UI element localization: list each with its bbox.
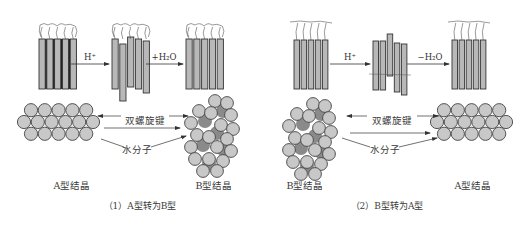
helix-bar-group: [39, 24, 77, 90]
label-b-crystal-1: B型结晶: [196, 178, 233, 192]
caption-b-to-a: （2）B型转为A型: [351, 199, 424, 212]
reaction-label-acid-2: H⁺: [344, 52, 356, 62]
label-water-molecule-2: 水分子: [370, 142, 400, 156]
label-a-crystal-2: A型结晶: [455, 178, 492, 192]
label-a-crystal-1: A型结晶: [54, 178, 91, 192]
a-type-crystal: [17, 104, 99, 141]
b-type-crystal: [185, 95, 240, 178]
helix-bar-group: [112, 24, 150, 102]
label-double-helix-2: 双螺旋键: [372, 113, 412, 127]
helix-bar-group: [448, 21, 490, 89]
label-water-molecule-1: 水分子: [122, 142, 152, 156]
reaction-label-acid-1: H⁺: [84, 52, 96, 62]
crystal-lattices: [17, 95, 512, 181]
caption-a-to-b: （1）A型转为B型: [104, 199, 177, 212]
label-b-crystal-2: B型结晶: [287, 178, 324, 192]
label-double-helix-1: 双螺旋键: [125, 113, 165, 127]
helix-bar-group: [290, 21, 332, 89]
reaction-label-add-water: +H₂O: [152, 52, 177, 62]
helix-bar-group: [369, 34, 411, 95]
b-type-crystal: [283, 98, 338, 181]
helix-bar-group: [186, 24, 224, 90]
a-type-crystal: [430, 104, 512, 141]
reaction-label-remove-water: −H₂O: [418, 52, 443, 62]
